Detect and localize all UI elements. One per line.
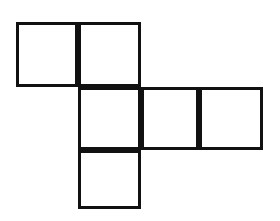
- square-r2c2: [80, 89, 140, 149]
- square-r2c4: [201, 89, 262, 149]
- cube-net-figure: [0, 0, 280, 221]
- square-r1c2: [80, 24, 140, 86]
- square-r2c3: [143, 89, 198, 149]
- square-r1c1: [18, 24, 77, 86]
- square-r3c2: [80, 152, 140, 208]
- cube-net-svg: [0, 0, 280, 221]
- net-squares-group: [18, 24, 262, 208]
